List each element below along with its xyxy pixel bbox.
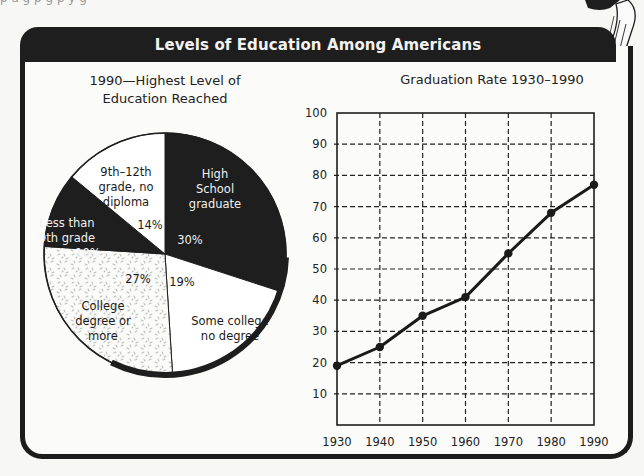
x-tick-label: 1950 [408,435,437,449]
pie-slice-value: 14% [137,218,163,232]
y-tick-label: 80 [312,168,327,182]
y-tick-label: 20 [312,356,327,370]
pie-slice-label: Some collegeno degree [191,314,268,343]
data-point [461,293,469,301]
data-point [333,362,341,370]
y-tick-label: 60 [312,231,327,245]
x-tick-label: 1980 [537,435,566,449]
y-tick-label: 50 [312,262,327,276]
x-tick-label: 1940 [365,435,394,449]
y-tick-label: 10 [312,387,327,401]
y-tick-label: 40 [312,293,327,307]
x-tick-label: 1970 [494,435,523,449]
x-tick-label: 1960 [451,435,480,449]
pie-slice-value: 10% [75,246,101,260]
line-chart: 1009080706050403020101930194019501960197… [305,106,609,449]
pie-slice-value: 27% [125,272,151,286]
pie-slice-value: 30% [177,233,203,247]
x-tick-label: 1990 [579,435,608,449]
data-point [590,181,598,189]
y-tick-label: 70 [312,200,327,214]
charts-canvas: HighSchoolgraduate30%Some collegeno degr… [0,0,644,476]
pie-slice-label: Less than9th grade [39,216,95,245]
pie-slice-value: 19% [169,275,195,289]
y-tick-label: 90 [312,137,327,151]
y-tick-label: 100 [305,106,327,120]
data-point [547,209,555,217]
x-tick-label: 1930 [322,435,351,449]
pie-chart: HighSchoolgraduate30%Some collegeno degr… [39,133,286,375]
data-point [376,343,384,351]
data-point [418,312,426,320]
data-point [504,249,512,257]
y-tick-label: 30 [312,324,327,338]
pie-slice-label: 9th–12thgrade, nodiploma [98,165,153,209]
